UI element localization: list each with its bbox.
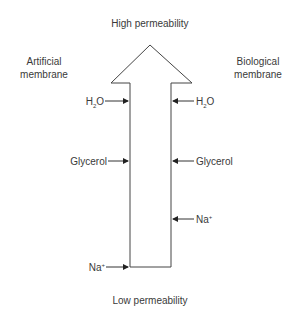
permeability-scale-arrow bbox=[111, 45, 192, 267]
high-permeability-label: High permeability bbox=[111, 17, 188, 30]
left-glycerol-label: Glycerol bbox=[70, 155, 107, 168]
biological-membrane-heading: Biological membrane bbox=[234, 55, 282, 81]
low-permeability-label: Low permeability bbox=[112, 294, 187, 307]
permeability-diagram: High permeability Low permeability Artif… bbox=[0, 0, 301, 321]
artificial-membrane-heading: Artificial membrane bbox=[20, 55, 68, 81]
heading-line-1: Artificial bbox=[20, 55, 68, 68]
big-arrow-graphic bbox=[0, 0, 301, 321]
right-na-label: Na+ bbox=[196, 213, 212, 226]
heading-line-1: Biological bbox=[234, 55, 282, 68]
heading-line-2: membrane bbox=[20, 68, 68, 81]
right-glycerol-label: Glycerol bbox=[196, 155, 233, 168]
right-h2o-label: H2O bbox=[196, 95, 214, 108]
heading-line-2: membrane bbox=[234, 68, 282, 81]
left-na-label: Na+ bbox=[89, 261, 105, 274]
left-h2o-label: H2O bbox=[86, 95, 104, 108]
